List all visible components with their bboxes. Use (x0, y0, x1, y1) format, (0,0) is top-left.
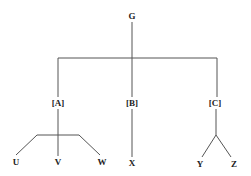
node-z: Z (231, 159, 237, 169)
node-x: X (129, 158, 136, 168)
node-c: [C] (209, 98, 222, 108)
node-w: W (98, 157, 107, 167)
node-u: U (13, 157, 20, 167)
node-y: Y (197, 159, 204, 169)
node-b: [B] (126, 98, 138, 108)
tree-edges (0, 0, 251, 176)
node-g: G (128, 11, 135, 21)
node-v: V (55, 157, 62, 167)
node-a: [A] (52, 98, 65, 108)
